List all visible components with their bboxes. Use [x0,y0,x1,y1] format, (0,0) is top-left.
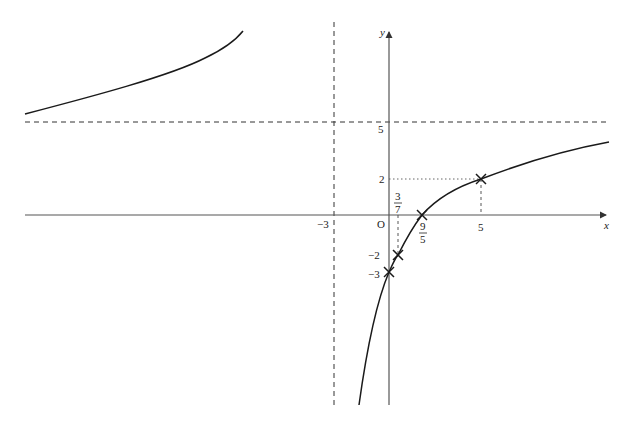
x-tick-5: 5 [478,221,484,233]
svg-text:5: 5 [420,233,426,245]
svg-text:3: 3 [395,190,401,202]
function-graph: y x O 5 2 −2 −3 −3 5 3 7 9 5 [0,0,633,425]
y-tick-5: 5 [378,123,384,135]
x-tick-3-7-fraction: 3 7 [394,190,402,215]
origin-label: O [377,218,385,230]
x-tick-m3: −3 [317,218,329,230]
y-tick-2: 2 [379,173,385,185]
y-tick-m2: −2 [368,249,380,261]
y-axis-label: y [379,26,385,38]
y-tick-m3: −3 [368,268,380,280]
x-axis-label: x [603,219,609,231]
curve-left-branch [25,31,243,114]
x-tick-9-5-fraction: 9 5 [419,220,427,245]
svg-text:7: 7 [395,203,401,215]
svg-text:9: 9 [420,220,426,232]
